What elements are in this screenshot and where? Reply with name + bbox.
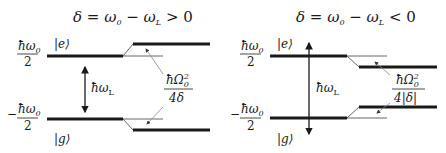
light-shift-label: ħΩ20 4δ [164, 72, 193, 105]
svg-text:ħω0: ħω0 [241, 102, 264, 118]
excited-state-label: |e⟩ [54, 37, 70, 51]
svg-text:2: 2 [247, 55, 255, 69]
panel-title: δ = ω0 − ωL > 0 [73, 8, 193, 27]
upper-energy-label: ħω0 2 [17, 39, 41, 69]
ground-state-label: |g⟩ [54, 132, 70, 146]
laser-energy-label: ħωL [91, 81, 115, 97]
lower-energy-label: − ħω0 2 [7, 102, 41, 133]
ground-state-label: |g⟩ [277, 132, 293, 146]
upper-energy-label: ħω0 2 [240, 39, 264, 69]
panel-title: δ = ω0 − ωL < 0 [296, 8, 416, 27]
svg-text:ħω0: ħω0 [241, 39, 264, 55]
svg-text:ħω0: ħω0 [18, 102, 41, 118]
lower-energy-label: − ħω0 2 [230, 102, 264, 133]
svg-text:ħω0: ħω0 [18, 39, 41, 55]
svg-text:ħΩ20: ħΩ20 [396, 72, 419, 89]
excited-state-label: |e⟩ [277, 37, 293, 51]
svg-text:ħΩ20: ħΩ20 [166, 72, 189, 89]
svg-text:−: − [7, 107, 17, 121]
svg-text:−: − [230, 107, 240, 121]
svg-text:4|δ|: 4|δ| [393, 91, 417, 105]
svg-text:2: 2 [24, 119, 32, 133]
panel-positive-detuning: δ = ω0 − ωL > 0 ħω0 2 |e⟩ − ħω0 2 |g⟩ [7, 8, 210, 146]
light-shift-diagram: δ = ω0 − ωL > 0 ħω0 2 |e⟩ − ħω0 2 |g⟩ [0, 0, 446, 153]
svg-text:2: 2 [247, 119, 255, 133]
panel-negative-detuning: δ = ω0 − ωL < 0 ħω0 2 |e⟩ − ħω0 2 |g⟩ ħω… [230, 8, 437, 146]
light-shift-label: ħΩ20 4|δ| [392, 72, 425, 105]
svg-text:4δ: 4δ [168, 91, 184, 105]
laser-energy-label: ħωL [316, 81, 340, 97]
svg-text:2: 2 [24, 55, 32, 69]
